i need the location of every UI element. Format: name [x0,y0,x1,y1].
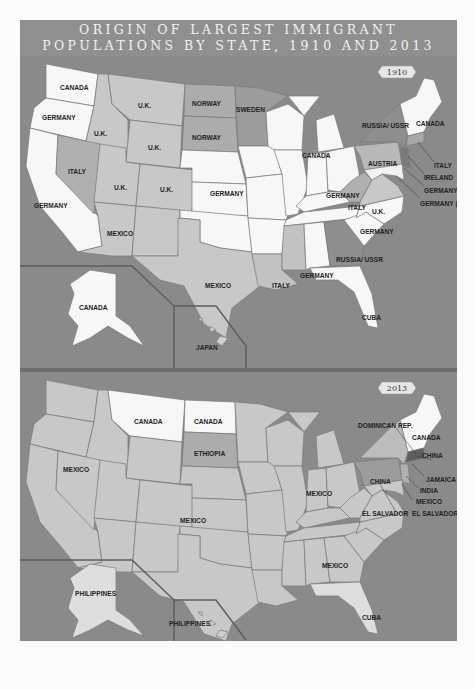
label-new-england: CANADA [416,120,445,127]
label-mt: U.K. [138,102,151,109]
label-ak: PHILIPPINES [75,590,117,597]
label-la: ITALY [272,282,291,289]
label-wv: ITALY [348,204,367,211]
label-pa: AUSTRIA [368,160,398,167]
label-nd: NORWAY [192,100,222,107]
label-fl: CUBA [362,314,381,321]
label-md-callout: EL SALVADOR [362,510,408,517]
state-wi [266,420,304,466]
state-ar [248,218,286,254]
label-wa: CANADA [60,84,89,91]
state-nm [132,206,180,256]
state-nm [132,522,180,572]
label-nj-callout: INDIA [420,487,438,494]
state-nd [184,400,236,434]
label-ct-callout: ITALY [434,162,453,169]
label-id: U.K. [94,130,107,137]
label-de-callout: MEXICO [416,498,442,505]
label-dc-callout: EL SALVADOR (D.C.) [412,510,457,518]
label-az: MEXICO [107,230,133,237]
title-line-2: POPULATIONS BY STATE, 1910 AND 2013 [20,38,457,54]
label-sd: ETHIOPIA [194,450,225,457]
state-ks [192,498,248,532]
state-wy [126,436,182,484]
label-ct-callout: JAMAICA [426,476,456,483]
year-label-2013: 2013 [387,384,407,393]
label-mt: CANADA [134,418,163,425]
map-2013-svg: 2013 CANADA CANADA ETHIOPIA MEXICO MEXIC… [20,372,457,641]
label-pa: CHINA [370,478,391,485]
label-ny-callout: DOMINICAN REP. [358,422,413,429]
label-ca: GERMANY [34,202,68,209]
label-sd: NORWAY [192,134,222,141]
label-nc: GERMANY [360,228,394,235]
year-label-1910: 1910 [387,68,407,77]
label-wy: U.K. [148,144,161,151]
label-oh: GERMANY [326,192,360,199]
map-1910: 1910 CANADA GERMANY GERMANY U.K. U.K. U.… [20,56,457,368]
label-nv: MEXICO [63,466,89,473]
label-ma-callout: CHINA [422,452,443,459]
label-ny: RUSSIA/ USSR [362,122,409,129]
label-ga: RUSSIA/ USSR [336,256,383,263]
title-line-1: ORIGIN OF LARGEST IMMIGRANT [20,22,457,38]
state-ms [282,540,306,586]
label-mn: SWEDEN [236,106,265,113]
label-tx: MEXICO [205,282,231,289]
state-fl [310,582,378,634]
label-de-callout: GERMANY [424,187,457,194]
page-margin [0,641,475,689]
label-fl: CUBA [362,614,381,621]
label-hi: PHILIPPINES [169,620,211,627]
label-or: GERMANY [42,114,76,121]
label-nj-callout: IRELAND [424,174,454,181]
label-co: MEXICO [180,517,206,524]
label-ks: GERMANY [210,190,244,197]
state-ms [282,224,306,270]
label-new-england: CANADA [412,434,441,441]
label-ak: CANADA [79,304,108,311]
map-title: ORIGIN OF LARGEST IMMIGRANT POPULATIONS … [20,20,457,56]
label-al: GERMANY [300,272,334,279]
label-nv: ITALY [68,168,87,175]
label-ut: U.K. [114,184,127,191]
label-in: MEXICO [306,490,332,497]
label-dc-callout: GERMANY (D.C.) [420,200,457,208]
label-va: U.K. [372,208,385,215]
map-1910-svg: 1910 CANADA GERMANY GERMANY U.K. U.K. U.… [20,56,457,368]
state-wi [266,104,304,150]
label-ga: MEXICO [322,562,348,569]
year-tag-1910: 1910 [378,66,416,78]
year-tag-2013: 2013 [378,382,416,394]
state-ks [192,182,248,216]
state-ar [248,534,286,570]
label-nd: CANADA [194,418,223,425]
label-co: U.K. [160,186,173,193]
map-2013: 2013 CANADA CANADA ETHIOPIA MEXICO MEXIC… [20,372,457,641]
state-ak [68,564,144,638]
label-hi: JAPAN [196,344,218,351]
label-mi: CANADA [302,152,331,159]
